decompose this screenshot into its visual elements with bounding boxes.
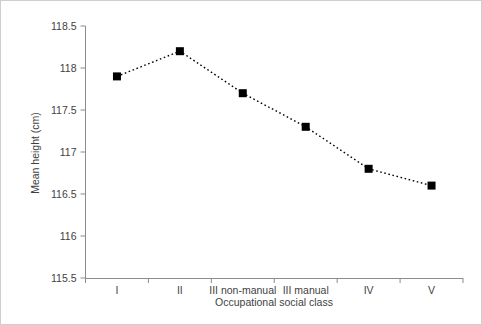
y-axis-title: Mean height (cm): [29, 112, 41, 194]
x-axis-category-label: II: [177, 284, 183, 296]
x-axis-category-label: IV: [364, 284, 374, 296]
y-axis-tick-label: 115.5: [51, 272, 77, 284]
data-point-marker: [302, 123, 310, 131]
x-axis-category-label: III non-manual: [209, 284, 276, 296]
x-axis-category-labels: IIIIII non-manualIII manualIVV: [115, 284, 435, 296]
data-point-marker: [176, 47, 184, 55]
x-axis-category-label: I: [115, 284, 118, 296]
y-axis-ticks: [81, 26, 86, 278]
y-axis-tick-label: 116: [60, 230, 77, 242]
data-point-marker: [239, 89, 247, 97]
y-axis: 118.5118117.5117116.5116115.5 Mean heigh…: [29, 20, 86, 284]
data-point-marker: [428, 182, 436, 190]
y-axis-tick-label: 118: [60, 62, 77, 74]
series-line: [117, 51, 432, 185]
x-axis-category-label: V: [428, 284, 435, 296]
data-point-marker: [113, 72, 121, 80]
data-point-marker: [365, 165, 373, 173]
x-axis-category-label: III manual: [283, 284, 329, 296]
x-axis-title: Occupational social class: [215, 296, 333, 308]
y-axis-tick-label: 117.5: [51, 104, 77, 116]
chart-figure: 118.5118117.5117116.5116115.5 Mean heigh…: [0, 0, 482, 325]
y-axis-tick-label: 116.5: [51, 188, 77, 200]
y-axis-tick-label: 117: [60, 146, 77, 158]
series-markers: [113, 47, 436, 189]
x-axis: IIIIII non-manualIII manualIVV Occupatio…: [86, 278, 464, 308]
y-axis-tick-labels: 118.5118117.5117116.5116115.5: [51, 20, 77, 284]
chart-canvas: 118.5118117.5117116.5116115.5 Mean heigh…: [1, 1, 482, 325]
data-series: [113, 47, 436, 189]
y-axis-tick-label: 118.5: [51, 20, 77, 32]
